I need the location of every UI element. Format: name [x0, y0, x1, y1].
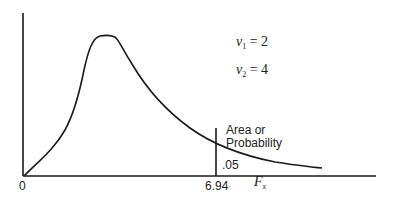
x-axis-label: Fx — [254, 176, 266, 193]
param-v1: v1 = 2 — [236, 36, 268, 53]
critical-tick-label: 6.94 — [205, 180, 228, 192]
area-label-line1: Area or — [226, 124, 265, 136]
v1-subscript: 1 — [242, 42, 246, 51]
v2-value: = 4 — [250, 62, 268, 77]
v1-value: = 2 — [250, 34, 268, 49]
param-v2: v2 = 4 — [236, 64, 268, 81]
x-axis-subscript: x — [263, 182, 267, 191]
area-value-label: .05 — [222, 159, 239, 171]
x-axis-symbol: F — [254, 174, 263, 189]
area-label-line2: Probability — [226, 137, 282, 149]
density-curve — [24, 35, 322, 176]
v2-subscript: 2 — [242, 70, 246, 79]
f-distribution-chart — [0, 0, 394, 205]
origin-tick-label: 0 — [19, 180, 26, 192]
